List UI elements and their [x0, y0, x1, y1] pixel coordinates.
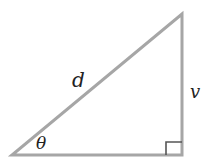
right-angle-marker: [166, 142, 182, 155]
angle-label: θ: [36, 133, 46, 153]
hypotenuse-label: d: [72, 68, 85, 92]
right-triangle-diagram: d v θ: [0, 0, 210, 168]
vertical-side-label: v: [190, 81, 200, 102]
